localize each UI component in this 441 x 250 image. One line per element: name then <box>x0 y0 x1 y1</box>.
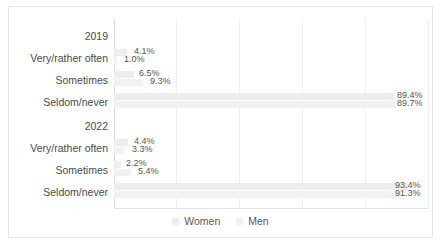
bar-men-2019-often[interactable] <box>114 57 117 64</box>
bar-women-2022-often[interactable] <box>114 139 128 146</box>
bar-women-2019-sometimes[interactable] <box>114 71 134 78</box>
value-label-men-2019-often: 1.0% <box>124 54 145 64</box>
value-label-men-2019-seldom: 89.7% <box>397 98 423 108</box>
bar-row-2022-sometimes: Sometimes 2.2% 5.4% <box>114 159 429 181</box>
bar-men-2022-often[interactable] <box>114 147 124 154</box>
bar-women-2022-sometimes[interactable] <box>114 161 121 168</box>
bar-row-2019-often: Very/rather often 4.1% 1.0% <box>114 47 429 69</box>
plot-area: 2019 Very/rather often 4.1% 1.0% Sometim… <box>114 19 429 209</box>
group-row-2022: 2022 <box>114 115 429 137</box>
bar-row-2022-seldom: Seldom/never 93.4% 91.3% <box>114 181 429 203</box>
value-label-men-2022-seldom: 91.3% <box>395 188 421 198</box>
category-label-very-rather-often-2022: Very/rather often <box>0 137 108 159</box>
category-label-seldom-never-2019: Seldom/never <box>0 91 108 113</box>
bar-men-2022-sometimes[interactable] <box>114 169 131 176</box>
category-axis-line <box>114 208 429 209</box>
category-label-sometimes-2019: Sometimes <box>0 69 108 91</box>
bar-men-2019-seldom[interactable] <box>114 101 396 108</box>
bar-women-2022-seldom[interactable] <box>114 183 408 190</box>
legend-label-women: Women <box>184 215 220 227</box>
bar-row-2022-often: Very/rather often 4.4% 3.3% <box>114 137 429 159</box>
category-label-seldom-never-2022: Seldom/never <box>0 181 108 203</box>
bar-group: 6.5% 9.3% <box>114 69 429 91</box>
legend-item-women[interactable]: Women <box>172 215 220 227</box>
bar-row-2019-seldom: Seldom/never 89.4% 89.7% <box>114 91 429 113</box>
value-label-men-2019-sometimes: 9.3% <box>150 76 171 86</box>
legend-label-men: Men <box>248 215 268 227</box>
legend-swatch-women-icon <box>172 218 179 225</box>
category-label-sometimes-2022: Sometimes <box>0 159 108 181</box>
chart-container: 2019 Very/rather often 4.1% 1.0% Sometim… <box>8 6 433 238</box>
legend-item-men[interactable]: Men <box>236 215 268 227</box>
group-row-2019: 2019 <box>114 25 429 47</box>
value-label-men-2022-often: 3.3% <box>132 144 153 154</box>
bar-group: 2.2% 5.4% <box>114 159 429 181</box>
group-label-2022: 2022 <box>0 115 108 137</box>
chart-legend: Women Men <box>9 215 432 227</box>
legend-swatch-men-icon <box>236 218 243 225</box>
bar-row-2019-sometimes: Sometimes 6.5% 9.3% <box>114 69 429 91</box>
bar-group: 93.4% 91.3% <box>114 181 429 203</box>
bar-group: 4.1% 1.0% <box>114 47 429 69</box>
bar-group: 89.4% 89.7% <box>114 91 429 113</box>
category-label-very-rather-often-2019: Very/rather often <box>0 47 108 69</box>
group-label-2019: 2019 <box>0 25 108 47</box>
value-label-men-2022-sometimes: 5.4% <box>138 166 159 176</box>
bar-men-2022-seldom[interactable] <box>114 191 401 198</box>
bar-men-2019-sometimes[interactable] <box>114 79 143 86</box>
bar-women-2019-seldom[interactable] <box>114 93 395 100</box>
bar-group: 4.4% 3.3% <box>114 137 429 159</box>
